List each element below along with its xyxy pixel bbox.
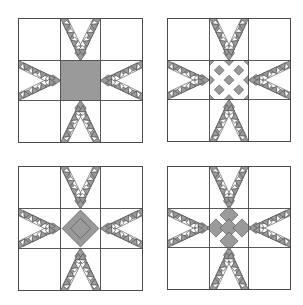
corner-square — [168, 100, 210, 142]
quilt-block-bottom-right — [167, 166, 291, 290]
corner-square — [101, 19, 143, 61]
corner-square — [19, 249, 61, 291]
quilt-block-drawing — [18, 166, 143, 291]
quilt-block-drawing — [167, 18, 291, 142]
corner-square — [168, 167, 210, 209]
corner-square — [101, 167, 143, 209]
quilt-block-drawing — [18, 18, 143, 143]
center-square — [61, 61, 101, 101]
corner-square — [101, 249, 143, 291]
quilt-block-bottom-left — [18, 166, 143, 291]
corner-square — [249, 248, 291, 290]
quilt-block-top-right — [167, 18, 291, 142]
corner-square — [19, 101, 61, 143]
quilt-block-top-left — [18, 18, 143, 143]
corner-square — [19, 167, 61, 209]
quilt-block-drawing — [167, 166, 291, 290]
corner-square — [168, 248, 210, 290]
corner-square — [249, 19, 291, 61]
corner-square — [101, 101, 143, 143]
corner-square — [249, 167, 291, 209]
corner-square — [168, 19, 210, 61]
corner-square — [249, 100, 291, 142]
corner-square — [19, 19, 61, 61]
